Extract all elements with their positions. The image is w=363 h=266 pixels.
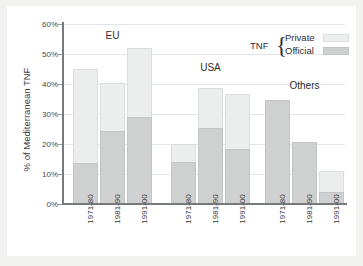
legend-item-private: Private bbox=[285, 32, 355, 45]
x-tick-label-text: 1981-90 bbox=[113, 194, 122, 223]
x-tick-label-text: 1971-80 bbox=[278, 194, 287, 223]
bar-segment-private bbox=[127, 48, 152, 117]
x-tick-label-text: 1971-80 bbox=[184, 194, 193, 223]
x-tick-label: 1981-90 bbox=[108, 207, 118, 263]
chart-legend: TNF { Private Official bbox=[250, 32, 355, 62]
bar-segment-private bbox=[171, 144, 196, 162]
x-tick-label: 1971-80 bbox=[81, 207, 91, 263]
y-tick-label: 10% bbox=[42, 170, 58, 179]
x-tick-label-text: 1981-90 bbox=[305, 194, 314, 223]
bar-eu-1971-80[interactable] bbox=[73, 69, 98, 204]
bar-usa-1991-00[interactable] bbox=[225, 94, 250, 204]
y-tick-label: 50% bbox=[42, 50, 58, 59]
bar-eu-1991-00[interactable] bbox=[127, 48, 152, 204]
y-tick-mark bbox=[58, 174, 62, 175]
x-tick-label: 1991-00 bbox=[135, 207, 145, 263]
bar-segment-private bbox=[73, 69, 98, 163]
y-tick-label: 30% bbox=[42, 110, 58, 119]
bar-segment-official bbox=[198, 128, 223, 204]
group-label-eu: EU bbox=[106, 30, 120, 41]
bar-segment-private bbox=[225, 94, 250, 149]
legend-swatch-official bbox=[323, 47, 349, 55]
legend-title: TNF bbox=[250, 40, 268, 51]
y-tick-label: 20% bbox=[42, 140, 58, 149]
x-tick-label: 1971-80 bbox=[273, 207, 283, 263]
bar-segment-official bbox=[265, 100, 290, 204]
bar-eu-1981-90[interactable] bbox=[100, 83, 125, 204]
bar-usa-1981-90[interactable] bbox=[198, 88, 223, 204]
group-label-usa: USA bbox=[200, 62, 221, 73]
x-tick-label-text: 1981-90 bbox=[211, 194, 220, 223]
x-tick-label-text: 1991-00 bbox=[332, 194, 341, 223]
x-tick-label: 1971-80 bbox=[179, 207, 189, 263]
y-tick-label: 40% bbox=[42, 80, 58, 89]
x-tick-label-text: 1991-00 bbox=[140, 194, 149, 223]
bar-segment-private bbox=[100, 83, 125, 131]
x-tick-label-text: 1971-80 bbox=[86, 194, 95, 223]
bar-segment-private bbox=[319, 171, 344, 192]
y-tick-mark bbox=[58, 144, 62, 145]
legend-swatch-private bbox=[323, 34, 349, 42]
bar-others-1971-80[interactable] bbox=[265, 100, 290, 204]
y-tick-mark bbox=[58, 114, 62, 115]
y-tick-label: 60% bbox=[42, 20, 58, 29]
x-tick-label: 1991-00 bbox=[233, 207, 243, 263]
chart-figure: 0%10%20%30%40%50%60% % of Mediterranean … bbox=[0, 0, 363, 266]
group-label-others: Others bbox=[289, 80, 319, 91]
y-axis-tick-labels: 0%10%20%30%40%50%60% bbox=[29, 6, 58, 266]
x-tick-label: 1991-00 bbox=[327, 207, 337, 263]
bar-segment-private bbox=[198, 88, 223, 128]
x-tick-label-text: 1991-00 bbox=[238, 194, 247, 223]
legend-label-private: Private bbox=[285, 32, 315, 43]
y-tick-label: 0% bbox=[46, 200, 58, 209]
y-tick-mark bbox=[58, 84, 62, 85]
y-tick-mark bbox=[58, 204, 62, 205]
legend-item-official: Official bbox=[285, 45, 355, 58]
y-tick-mark bbox=[58, 24, 62, 25]
y-axis-title: % of Mediterranean TNF bbox=[21, 45, 32, 195]
legend-label-official: Official bbox=[285, 45, 314, 56]
bar-segment-official bbox=[100, 131, 125, 204]
y-axis-line bbox=[62, 22, 64, 205]
x-tick-label: 1981-90 bbox=[300, 207, 310, 263]
bar-segment-official bbox=[127, 117, 152, 204]
x-tick-label: 1981-90 bbox=[206, 207, 216, 263]
y-tick-mark bbox=[58, 54, 62, 55]
gridline bbox=[63, 24, 345, 25]
chart-card: 0%10%20%30%40%50%60% % of Mediterranean … bbox=[7, 6, 356, 256]
